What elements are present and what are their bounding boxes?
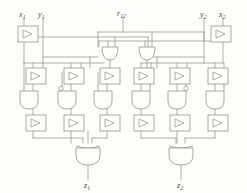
driver-r1 bbox=[134, 115, 154, 131]
buffer-l1 bbox=[26, 68, 46, 84]
and-gate-l2 bbox=[58, 86, 76, 109]
driver-l2 bbox=[64, 115, 84, 131]
xor-gate-z1 bbox=[76, 146, 100, 165]
and-gate-r3 bbox=[206, 91, 224, 109]
and-gate-l1 bbox=[20, 91, 38, 109]
input-label-y2: y2 bbox=[199, 10, 207, 20]
buffer-l2 bbox=[64, 68, 84, 84]
input-label-x2: x2 bbox=[218, 10, 226, 20]
inverter-x2 bbox=[211, 26, 231, 42]
input-label-r12: r12 bbox=[117, 9, 126, 19]
input-label-x1: x1 bbox=[18, 10, 26, 20]
output-label-z2: z2 bbox=[176, 181, 183, 191]
driver-l1 bbox=[26, 115, 46, 131]
or-gate-right bbox=[139, 47, 155, 60]
driver-r2 bbox=[170, 115, 190, 131]
wiring-layer bbox=[24, 17, 224, 180]
and-gate-r1 bbox=[132, 91, 150, 109]
or-gate-left bbox=[102, 47, 118, 60]
inverter-x1 bbox=[18, 26, 38, 42]
and-gate-l3 bbox=[94, 91, 112, 109]
buffer-r1 bbox=[134, 68, 154, 84]
xor-gate-z2 bbox=[169, 146, 193, 165]
output-label-z1: z1 bbox=[83, 181, 90, 191]
buffer-l3 bbox=[100, 68, 120, 84]
driver-r3 bbox=[208, 115, 228, 131]
circuit-svg: x1 y1 r12 y2 x2 z1 z2 bbox=[0, 0, 247, 193]
buffer-r2 bbox=[170, 68, 190, 84]
buffer-r3 bbox=[208, 68, 228, 84]
circuit-diagram-root: x1 y1 r12 y2 x2 z1 z2 bbox=[0, 0, 247, 193]
driver-l3 bbox=[100, 115, 120, 131]
and-gate-r2 bbox=[168, 86, 188, 109]
input-label-y1: y1 bbox=[37, 10, 45, 20]
label-layer: x1 y1 r12 y2 x2 z1 z2 bbox=[18, 9, 226, 191]
